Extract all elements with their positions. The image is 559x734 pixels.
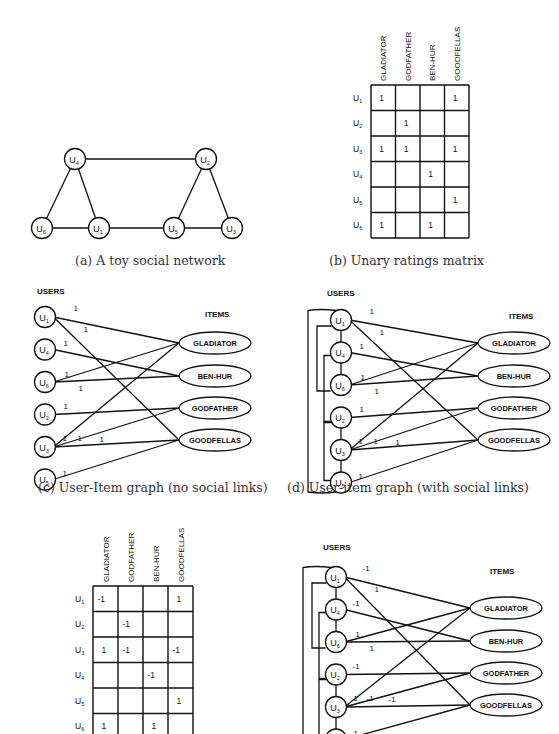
- signed-matrix-column-header: BEN-HUR: [152, 545, 161, 582]
- rating-edge: [350, 408, 479, 418]
- rating-edge: [350, 440, 479, 450]
- rating-weight: 1: [360, 342, 365, 351]
- user-node-u1: U1: [35, 307, 56, 328]
- unary-matrix-row-header: U6: [353, 220, 362, 231]
- item-node-ben-hur: BEN-HUR: [478, 365, 550, 387]
- unary-matrix-row-header: U4: [353, 169, 362, 180]
- rating-edge: [350, 320, 479, 343]
- rating-weight: -1: [367, 694, 375, 703]
- rating-edge: [54, 343, 180, 382]
- unary-matrix-cell: 1: [453, 195, 458, 205]
- signed-matrix-cell: -1: [123, 619, 131, 629]
- unary-matrix-cell: 1: [428, 220, 433, 230]
- user-node-u1: U1: [331, 310, 352, 331]
- item-node-label: GLADIATOR: [492, 339, 536, 348]
- rating-weight: 1: [100, 435, 105, 444]
- user-node-u1: U1: [326, 567, 347, 588]
- item-node-godfather: GODFATHER: [179, 397, 251, 419]
- panel-signed-user-item-graph: USERSITEMS-11-111-11-1-11U1U4U6U2U3U5GLA…: [280, 510, 559, 734]
- rating-weight: 1: [370, 307, 375, 316]
- signed-matrix-cell: -1: [173, 645, 181, 655]
- unary-matrix-column-header: GODFATHER: [404, 32, 413, 81]
- panel-user-item-graph-social: USERSITEMS1111111111U1U4U6U2U3U5GLADIATO…: [280, 280, 559, 510]
- social-network-graph: U4U2U6U1U5U3: [0, 0, 280, 275]
- signed-matrix-cell: -1: [123, 645, 131, 655]
- signed-matrix-cell: -1: [148, 670, 156, 680]
- panel-unary-matrix: GLADIATORGODFATHERBEN-HURGOODFELLASU111U…: [280, 0, 559, 275]
- rating-edge: [345, 673, 471, 675]
- unary-matrix-column-header: GLADIATOR: [379, 35, 388, 81]
- rating-weight: 1: [360, 405, 365, 414]
- user-node-u3: U3: [331, 440, 352, 461]
- item-node-godfather: GODFATHER: [478, 397, 550, 419]
- caption-b: (b) Unary ratings matrix: [329, 253, 484, 268]
- rating-weight: 1: [396, 438, 401, 447]
- item-node-label: GODFATHER: [192, 404, 239, 413]
- item-node-label: BEN-HUR: [497, 372, 532, 381]
- rating-weight: 1: [74, 304, 79, 313]
- user-node-u3: U3: [326, 697, 347, 718]
- user-node-u6: U6: [326, 632, 347, 653]
- item-node-label: GOODFELLAS: [189, 436, 241, 445]
- item-node-label: BEN-HUR: [489, 637, 524, 646]
- rating-edge: [345, 705, 471, 734]
- unary-matrix-column-header: GOODFELLAS: [453, 27, 462, 81]
- rating-weight: -1: [353, 599, 361, 608]
- signed-matrix-cell: 1: [152, 721, 157, 731]
- rating-edge: [350, 376, 479, 385]
- social-links: [308, 310, 341, 494]
- item-node-label: GOODFELLAS: [488, 436, 540, 445]
- rating-edge: [350, 408, 479, 450]
- item-node-label: GODFATHER: [491, 404, 538, 413]
- signed-matrix-cell: 1: [177, 594, 182, 604]
- signed-matrix-row-header: U1: [75, 594, 84, 605]
- user-node-u6: U6: [331, 375, 352, 396]
- rating-edge: [345, 577, 471, 608]
- unary-matrix-cell: 1: [379, 144, 384, 154]
- rating-weight: 1: [354, 729, 359, 734]
- rating-edge: [54, 343, 180, 447]
- user-node-u6: U6: [35, 372, 56, 393]
- rating-weight: 1: [380, 328, 385, 337]
- rating-weight: -1: [389, 695, 397, 704]
- rating-edge: [345, 705, 471, 707]
- items-heading: ITEMS: [490, 567, 515, 576]
- rating-edge: [350, 343, 479, 385]
- user-node-u1: U1: [89, 218, 110, 239]
- item-node-goodfellas: GOODFELLAS: [478, 429, 550, 451]
- rating-weight: 1: [361, 373, 366, 382]
- rating-weight: 1: [84, 325, 89, 334]
- signed-matrix-column-header: GLADIATOR: [102, 536, 111, 582]
- items-heading: ITEMS: [205, 310, 230, 319]
- rating-edge: [345, 608, 471, 707]
- user-node-u2: U2: [35, 404, 56, 425]
- rating-edges: 1111111111: [54, 304, 180, 480]
- rating-weight: 1: [65, 370, 70, 379]
- unary-matrix-table: GLADIATORGODFATHERBEN-HURGOODFELLASU111U…: [353, 27, 469, 238]
- signed-matrix-cell: 1: [102, 645, 107, 655]
- panel-signed-matrix: GLADIATORGODFATHERBEN-HURGOODFELLASU1-11…: [0, 510, 280, 734]
- rating-weight: 1: [78, 434, 83, 443]
- rating-weight: 1: [79, 384, 84, 393]
- rating-weight: 1: [356, 630, 361, 639]
- item-node-goodfellas: GOODFELLAS: [470, 694, 542, 716]
- panel-social-network: U4U2U6U1U5U3 (a) A toy social network: [0, 0, 280, 275]
- panel-user-item-graph-no-social: USERSITEMS1111111111U1U4U6U2U3U5GLADIATO…: [0, 280, 280, 510]
- unary-matrix-row-header: U2: [353, 118, 362, 129]
- unary-matrix-column-header: BEN-HUR: [428, 44, 437, 81]
- item-node-label: GODFATHER: [483, 669, 530, 678]
- rating-weight: 1: [375, 585, 380, 594]
- rating-edge: [350, 343, 479, 450]
- unary-matrix-row-header: U3: [353, 144, 362, 155]
- rating-weight: 1: [374, 437, 379, 446]
- unary-matrix-cell: 1: [379, 93, 384, 103]
- social-edge: [42, 159, 75, 228]
- rating-weight: 1: [375, 387, 380, 396]
- item-node-ben-hur: BEN-HUR: [470, 630, 542, 652]
- signed-matrix-row-header: U3: [75, 645, 84, 656]
- item-node-label: BEN-HUR: [198, 372, 233, 381]
- user-node-u5: U5: [164, 218, 185, 239]
- item-node-gladiator: GLADIATOR: [470, 597, 542, 619]
- user-node-u3: U3: [222, 218, 243, 239]
- user-item-graph-social: USERSITEMS1111111111U1U4U6U2U3U5GLADIATO…: [280, 280, 559, 510]
